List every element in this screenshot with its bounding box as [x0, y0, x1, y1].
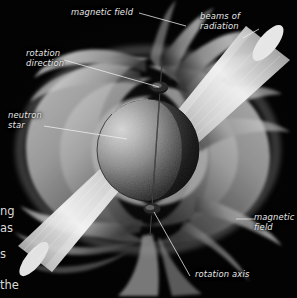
margin-text-fragment-3: s: [0, 248, 6, 260]
margin-text-fragment-2: as: [0, 222, 13, 234]
label-beams-of-radiation: beams of radiation: [200, 11, 240, 31]
magnetic-pole-south: [143, 204, 160, 216]
pulsar-illustration: [0, 0, 297, 298]
margin-text-fragment-4: the: [0, 279, 19, 291]
label-rotation-axis: rotation axis: [195, 269, 249, 279]
label-neutron-star: neutron star: [8, 110, 42, 130]
label-magnetic-field-top: magnetic field: [71, 7, 133, 17]
margin-text-fragment-1: ng: [0, 205, 15, 217]
label-magnetic-field-right: magnetic field: [254, 212, 294, 232]
pulsar-figure: magnetic field beams of radiation rotati…: [0, 0, 297, 298]
magnetic-pole-north: [150, 81, 168, 93]
label-rotation-direction: rotation direction: [26, 48, 64, 68]
neutron-star-sphere: [97, 99, 199, 201]
